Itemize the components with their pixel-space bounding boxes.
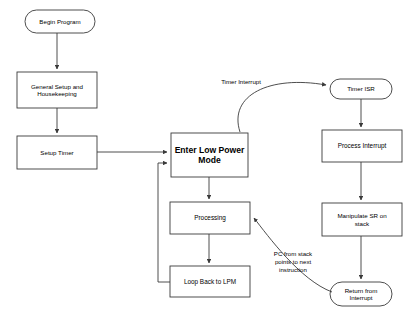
- node-shape-loop-back: [170, 266, 250, 297]
- edge-timer-interrupt-curve: [238, 82, 326, 132]
- node-shape-manipulate-sr: [322, 203, 402, 236]
- node-shape-begin-program: [25, 10, 95, 33]
- flowchart-shapes-and-edges: [0, 0, 414, 322]
- edge-loopback-to-lpm: [158, 163, 170, 282]
- node-shape-setup-timer: [17, 136, 97, 169]
- node-shape-general-setup: [17, 72, 97, 108]
- flowchart-canvas: Begin Program General Setup and Housekee…: [0, 0, 414, 322]
- node-shape-enter-lpm: [171, 133, 248, 177]
- node-shape-process-interrupt: [322, 130, 402, 162]
- node-shape-timer-isr: [330, 79, 392, 99]
- edge-return-to-processing: [254, 218, 332, 292]
- node-shape-return-from-interrupt: [330, 282, 392, 306]
- node-shape-processing: [170, 202, 250, 234]
